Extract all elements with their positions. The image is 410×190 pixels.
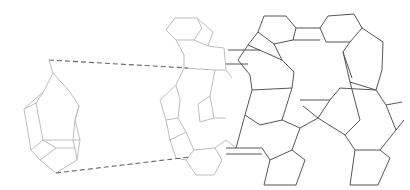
- light-framework-edge: [160, 85, 178, 120]
- dark-framework-edge: [238, 32, 258, 90]
- light-framework-edge: [208, 46, 226, 70]
- dark-framework-edge: [386, 102, 402, 105]
- dark-framework-edge: [350, 28, 383, 90]
- dark-framework-edge: [274, 44, 294, 88]
- framework-diagram: [0, 0, 410, 190]
- light-framework-edge: [166, 18, 202, 40]
- light-framework-edge: [170, 140, 186, 160]
- cage-unit-edge: [24, 60, 80, 173]
- guide-line: [56, 157, 190, 173]
- dark-framework-edge: [282, 120, 300, 128]
- dashed-guide-lines: [49, 60, 190, 173]
- dark-framework-edge: [236, 115, 245, 148]
- dark-framework-edge: [303, 106, 318, 118]
- dark-framework-edge: [345, 90, 396, 150]
- light-framework-edge: [176, 40, 184, 68]
- dark-framework-edge: [292, 100, 330, 150]
- light-framework-edge: [194, 18, 213, 46]
- light-framework-edge: [226, 70, 232, 78]
- light-framework-edge: [210, 70, 226, 118]
- cage-unit-edge: [31, 103, 43, 150]
- dark-framework-edge: [245, 88, 292, 125]
- light-framework-edge: [194, 140, 226, 150]
- light-framework-layer: [160, 18, 236, 175]
- light-framework-edge: [198, 96, 214, 122]
- cage-unit-edge: [43, 140, 56, 148]
- dark-framework-edge: [248, 45, 282, 60]
- isolated-cage-unit: [24, 60, 80, 173]
- dark-framework-edge: [350, 150, 390, 185]
- dark-framework-edge: [262, 148, 305, 185]
- dark-framework-edge: [343, 52, 352, 78]
- guide-line: [49, 60, 188, 68]
- cage-unit-edge: [40, 148, 77, 160]
- light-framework-edge: [226, 140, 236, 148]
- framework-diagram-canvas: [0, 0, 410, 190]
- light-framework-edge: [176, 68, 186, 132]
- dark-framework-layer: [226, 14, 404, 185]
- dark-framework-edge: [258, 16, 296, 44]
- light-framework-edge: [166, 120, 186, 140]
- light-framework-edge: [184, 68, 226, 70]
- dark-framework-edge: [252, 88, 292, 90]
- light-framework-edge: [186, 132, 222, 175]
- dark-framework-edge: [396, 120, 404, 130]
- cage-unit-edge: [73, 140, 75, 148]
- dark-framework-edge: [320, 14, 362, 42]
